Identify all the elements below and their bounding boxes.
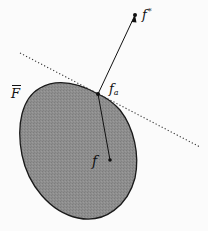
label-f-star-base: f xyxy=(142,7,147,22)
label-f-star: f* xyxy=(142,8,152,21)
label-f: f xyxy=(92,154,97,168)
label-F-bar-text: F xyxy=(11,86,20,101)
overline-bar xyxy=(12,85,21,86)
point-f xyxy=(108,158,112,162)
point-fstar xyxy=(133,13,137,17)
set-region-F xyxy=(20,83,137,219)
label-f-a-subscript: a xyxy=(114,88,119,97)
label-F-bar: F xyxy=(11,87,20,100)
point-fa xyxy=(96,92,100,96)
label-f-a: fa xyxy=(109,82,119,97)
label-f-star-superscript: * xyxy=(148,7,152,16)
diagram-canvas: f* fa f F xyxy=(0,0,208,231)
diagram-svg xyxy=(0,0,208,231)
